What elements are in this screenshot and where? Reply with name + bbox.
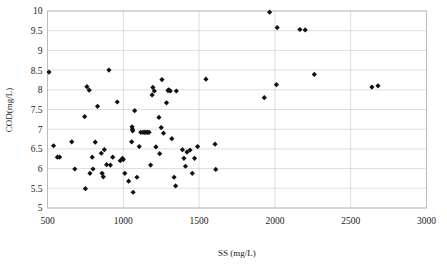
data-point xyxy=(203,77,208,82)
y-tick-label: 6 xyxy=(38,164,43,174)
data-point xyxy=(132,108,137,113)
data-point xyxy=(115,99,120,104)
data-point xyxy=(369,84,374,89)
data-point xyxy=(181,156,186,161)
x-axis-title: SS (mg/L) xyxy=(218,248,256,258)
data-point xyxy=(95,104,100,109)
data-point xyxy=(303,27,308,32)
data-point xyxy=(72,166,77,171)
data-point xyxy=(129,139,134,144)
data-point xyxy=(148,162,153,167)
data-point xyxy=(51,143,56,148)
data-point xyxy=(106,68,111,73)
y-tick-label: 10 xyxy=(33,6,43,16)
x-tick-label: 500 xyxy=(40,216,55,226)
data-point xyxy=(297,27,302,32)
y-tick-label: 7 xyxy=(38,125,43,135)
data-point xyxy=(82,114,87,119)
data-point xyxy=(156,115,161,120)
data-point xyxy=(157,151,162,156)
data-point xyxy=(190,171,195,176)
scatter-chart: 55.566.577.588.599.510 50010001500200025… xyxy=(0,0,447,264)
data-point xyxy=(173,183,178,188)
data-point xyxy=(90,166,95,171)
y-tick-label: 7.5 xyxy=(31,105,43,115)
data-point xyxy=(161,131,166,136)
x-tick-label: 1000 xyxy=(114,216,133,226)
data-point xyxy=(375,83,380,88)
y-tick-label: 8.5 xyxy=(31,66,43,76)
y-tick-label: 5 xyxy=(38,203,43,213)
data-point xyxy=(126,179,131,184)
data-point xyxy=(267,10,272,15)
chart-canvas: 55.566.577.588.599.510 50010001500200025… xyxy=(0,0,447,264)
data-point xyxy=(164,100,169,105)
data-point xyxy=(171,175,176,180)
data-point xyxy=(99,151,104,156)
y-tick-label: 5.5 xyxy=(31,184,43,194)
y-tick-label: 9 xyxy=(38,46,43,56)
x-tick-label: 2000 xyxy=(265,216,284,226)
data-point xyxy=(110,155,115,160)
data-point xyxy=(174,88,179,93)
data-point xyxy=(108,162,113,167)
y-axis-title: COD(mg/L) xyxy=(4,88,14,133)
data-point xyxy=(275,25,280,30)
data-point xyxy=(137,144,142,149)
data-point xyxy=(195,144,200,149)
data-point xyxy=(183,164,188,169)
y-tick-label: 8 xyxy=(38,85,43,95)
x-tick-label: 2500 xyxy=(341,216,360,226)
data-point xyxy=(180,147,185,152)
gridlines-group xyxy=(48,11,427,208)
data-point xyxy=(159,77,164,82)
data-point xyxy=(93,140,98,145)
data-point xyxy=(87,171,92,176)
data-point xyxy=(102,147,107,152)
x-tick-label: 3000 xyxy=(417,216,436,226)
data-point xyxy=(192,156,197,161)
y-tick-label: 9.5 xyxy=(31,26,43,36)
data-point xyxy=(262,95,267,100)
y-axis-tick-labels: 55.566.577.588.599.510 xyxy=(31,6,43,213)
data-point xyxy=(274,82,279,87)
data-point xyxy=(83,186,88,191)
data-point xyxy=(90,155,95,160)
data-point xyxy=(212,142,217,147)
data-point xyxy=(169,136,174,141)
data-point xyxy=(213,167,218,172)
data-point xyxy=(131,190,136,195)
x-axis-tick-labels: 50010001500200025003000 xyxy=(40,216,436,226)
y-tick-label: 6.5 xyxy=(31,144,43,154)
x-tick-label: 1500 xyxy=(190,216,209,226)
data-point xyxy=(122,171,127,176)
data-points-group xyxy=(46,10,380,195)
data-point xyxy=(312,72,317,77)
data-point xyxy=(134,175,139,180)
data-point xyxy=(69,139,74,144)
